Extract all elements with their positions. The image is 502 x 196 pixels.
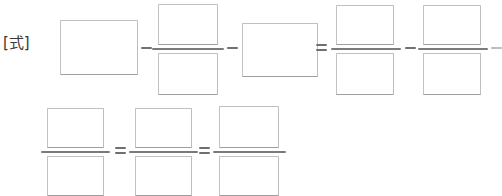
equals-operator-3 — [199, 147, 210, 154]
fraction-bar-5 — [129, 151, 198, 153]
fraction-bar-6 — [213, 151, 286, 153]
answer-box-11-numerator[interactable] — [135, 108, 192, 148]
answer-box-13-numerator[interactable] — [219, 106, 279, 148]
answer-box-9-numerator[interactable] — [47, 108, 104, 148]
fraction-bar-4 — [41, 151, 110, 153]
answer-box-14-denominator[interactable] — [219, 156, 279, 196]
equals-operator-2 — [115, 147, 126, 154]
answer-box-10-denominator[interactable] — [47, 156, 104, 196]
answer-box-12-denominator[interactable] — [135, 156, 192, 196]
